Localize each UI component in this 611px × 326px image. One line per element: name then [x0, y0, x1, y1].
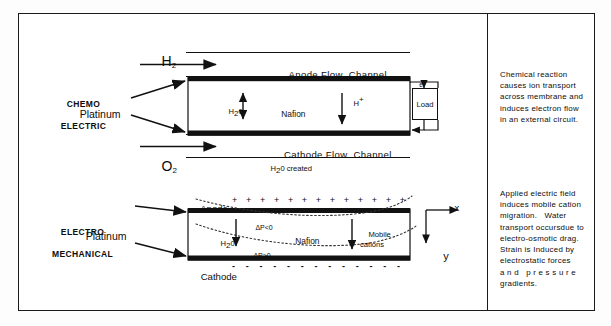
positive-charge-symbol: +: [372, 196, 377, 205]
note-electro-line-8: a n d p r e s s u r e: [500, 267, 611, 278]
note-chemo-line-2: causes ion transport: [500, 80, 611, 91]
lower-platinum-label: Platinum: [74, 220, 127, 252]
note-chemo-line-5: in an external circuit.: [500, 114, 611, 125]
negative-charge-symbol: -: [273, 262, 276, 271]
positive-charge-symbol: +: [400, 196, 405, 205]
note-electro-line-7: electrostatic forces: [500, 255, 611, 266]
positive-charge-symbol: +: [246, 196, 251, 205]
positive-charge-symbol: +: [260, 196, 265, 205]
note-electro-line-6: Strain is Induced by: [500, 244, 611, 255]
negative-charge-symbol: -: [301, 262, 304, 271]
note-electro-mechanical: Applied electric fieldinduces mobile cat…: [500, 188, 611, 289]
o2-subscript: 2: [172, 166, 176, 175]
o2-inlet-label: O2: [146, 145, 177, 190]
axis-y-label: y: [431, 240, 449, 274]
mobile-cations-label: Mobilecations: [360, 221, 391, 259]
note-chemo-electric: Chemical reactioncauses ion transportacr…: [500, 69, 611, 125]
upper-membrane-label: Nafion: [272, 101, 306, 127]
positive-charge-symbol: +: [288, 196, 293, 205]
negative-charge-symbol: -: [342, 262, 345, 271]
note-chemo-line-4: induces electron flow: [500, 103, 611, 114]
electron-label: e-: [412, 72, 425, 95]
note-chemo-line-1: Chemical reaction: [500, 69, 611, 80]
positive-charge-symbol: +: [302, 196, 307, 205]
negative-charge-symbol: -: [232, 262, 235, 271]
negative-charge-symbol: -: [383, 262, 386, 271]
pressure-negative-label: ΔP<0: [248, 217, 273, 238]
negative-charge-symbol: -: [356, 262, 359, 271]
negative-charge-symbol: -: [397, 262, 400, 271]
negative-charge-symbol: -: [287, 262, 290, 271]
proton-label: H+: [345, 88, 364, 115]
h2-inlet-label: H2: [146, 40, 176, 85]
positive-charge-row: +++++++++++++: [232, 196, 405, 205]
figure-canvas: Load CHEMO ELECTRIC Platinum H2 O2 Anode…: [0, 0, 611, 326]
positive-charge-symbol: +: [274, 196, 279, 205]
lower-water-label: H20: [212, 232, 235, 258]
positive-charge-symbol: +: [330, 196, 335, 205]
anode-flow-channel-label: Anode Flow Channel: [277, 60, 387, 89]
negative-charge-symbol: -: [315, 262, 318, 271]
positive-charge-symbol: +: [316, 196, 321, 205]
anode-label: Anode: [190, 194, 228, 223]
note-electro-line-4: transport occursdue to: [500, 222, 611, 233]
pressure-positive-label: ΔP>0: [246, 245, 271, 266]
positive-charge-symbol: +: [344, 196, 349, 205]
axis-x-label: x: [444, 193, 459, 222]
positive-charge-symbol: +: [358, 196, 363, 205]
note-electro-line-1: Applied electric field: [500, 188, 611, 199]
upper-platinum-label: Platinum: [68, 98, 121, 130]
note-electro-line-9: gradients.: [500, 278, 611, 289]
h2-subscript: 2: [172, 61, 176, 70]
note-electro-line-5: electro-osmotic drag.: [500, 233, 611, 244]
note-electro-line-2: induces mobile cation: [500, 199, 611, 210]
note-electro-line-3: migration. Water: [500, 210, 611, 221]
positive-charge-symbol: +: [386, 196, 391, 205]
lower-membrane-label: Nafion: [286, 228, 320, 254]
note-chemo-line-3: across membrane and: [500, 91, 611, 102]
product-water-label: H20 created: [262, 157, 312, 183]
cathode-label: Cathode: [190, 262, 237, 291]
negative-charge-symbol: -: [370, 262, 373, 271]
positive-charge-symbol: +: [232, 196, 237, 205]
upper-water-label: H20: [220, 100, 243, 126]
negative-charge-symbol: -: [328, 262, 331, 271]
